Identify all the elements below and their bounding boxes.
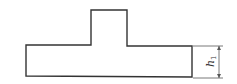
t-section-diagram: h1 — [0, 0, 237, 84]
svg-text:h1: h1 — [204, 55, 218, 67]
arrowhead-bottom-icon — [217, 74, 221, 78]
t-shape-outline — [26, 10, 192, 77]
arrowhead-top-icon — [217, 46, 221, 50]
dimension-label-h1: h1 — [204, 55, 218, 67]
